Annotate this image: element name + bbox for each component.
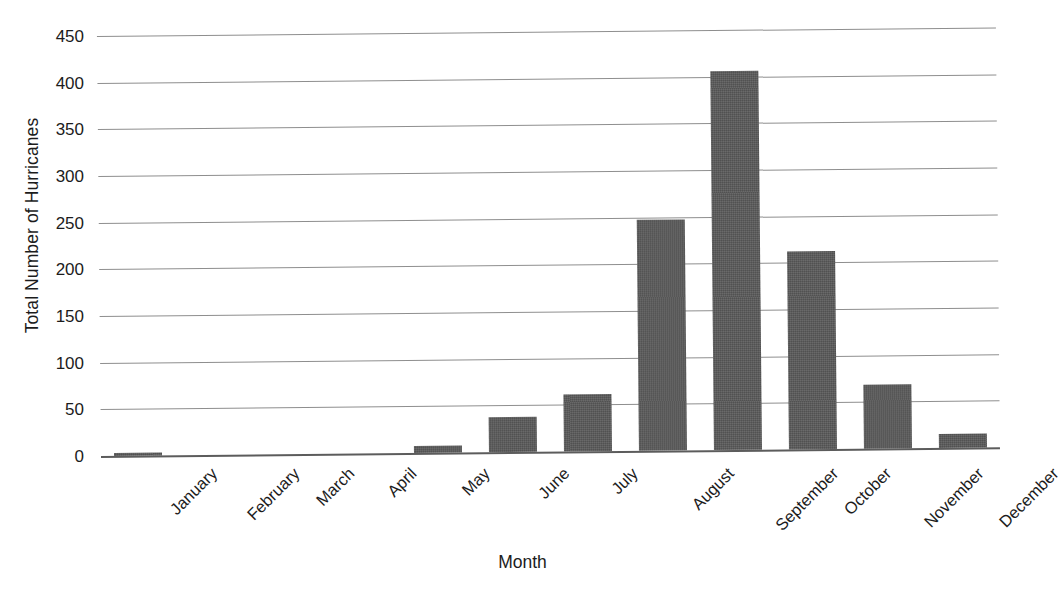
x-axis-tick-label: July bbox=[607, 464, 641, 498]
bar bbox=[563, 394, 611, 451]
y-axis-tick-label: 0 bbox=[75, 447, 84, 467]
bar bbox=[938, 434, 986, 448]
y-axis-tick-label: 250 bbox=[56, 214, 84, 234]
x-axis-tick-label: December bbox=[995, 464, 1062, 531]
x-axis-tick-label: November bbox=[920, 464, 987, 531]
x-axis-tick-label: September bbox=[772, 464, 843, 535]
x-axis-tick-label: August bbox=[688, 464, 738, 514]
bar bbox=[489, 416, 537, 452]
y-axis-tick-label: 50 bbox=[65, 400, 84, 420]
y-axis-tick-label: 200 bbox=[56, 260, 84, 280]
x-axis-tick-label: June bbox=[534, 464, 573, 503]
bar bbox=[863, 384, 912, 449]
bar bbox=[787, 251, 837, 449]
bar bbox=[710, 71, 762, 450]
y-axis-tick-label: 100 bbox=[56, 354, 84, 374]
y-axis-tick-label: 300 bbox=[56, 167, 84, 187]
y-axis-tick-label: 450 bbox=[56, 27, 84, 47]
y-axis-tick-label: 400 bbox=[56, 74, 84, 94]
y-axis-tick-label: 350 bbox=[56, 120, 84, 140]
bar bbox=[637, 219, 687, 451]
bars bbox=[97, 27, 1000, 456]
x-axis-tick-label: March bbox=[312, 464, 358, 510]
x-axis-tick-label: February bbox=[243, 464, 303, 524]
x-axis-title-text: Month bbox=[498, 552, 547, 572]
x-axis-tick-label: October bbox=[840, 464, 895, 519]
y-axis-tick-label: 150 bbox=[56, 307, 84, 327]
bar bbox=[414, 445, 462, 453]
x-axis-tick-label: May bbox=[458, 464, 493, 499]
x-axis-tick-label: April bbox=[383, 464, 420, 501]
x-axis-tick-label: January bbox=[166, 464, 221, 519]
x-axis-title: Month bbox=[0, 552, 1017, 573]
x-axis-tick-labels: JanuaryFebruaryMarchAprilMayJuneJulyAugu… bbox=[101, 456, 1000, 552]
y-axis-tick-labels: 050100150200250300350400450 bbox=[0, 36, 96, 456]
plot-area bbox=[101, 36, 1000, 456]
